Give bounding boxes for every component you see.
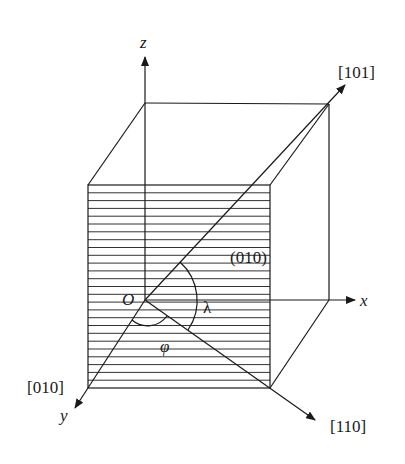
y-axis-label: y bbox=[58, 406, 68, 425]
phi-label: φ bbox=[160, 337, 169, 356]
z-axis-label: z bbox=[139, 33, 147, 52]
origin-label: O bbox=[122, 290, 134, 309]
cube-edge-top-right bbox=[270, 104, 329, 185]
direction-110-label: [110] bbox=[330, 417, 366, 436]
crystal-cube-diagram: z x y O (010) [101] [010] [110] λ φ bbox=[0, 0, 405, 464]
direction-010-label: [010] bbox=[27, 378, 64, 397]
cube-back-top-edge bbox=[145, 103, 329, 104]
lambda-angle-arc bbox=[180, 262, 197, 330]
cube-edge-top-left bbox=[88, 103, 145, 185]
x-axis-label: x bbox=[359, 291, 368, 310]
direction-101-label: [101] bbox=[338, 63, 375, 82]
cube-edge-bottom-right bbox=[270, 300, 329, 388]
y-axis bbox=[75, 300, 145, 408]
lambda-label: λ bbox=[203, 298, 212, 317]
plane-label-010: (010) bbox=[230, 248, 267, 267]
plane-hatching bbox=[88, 193, 270, 380]
